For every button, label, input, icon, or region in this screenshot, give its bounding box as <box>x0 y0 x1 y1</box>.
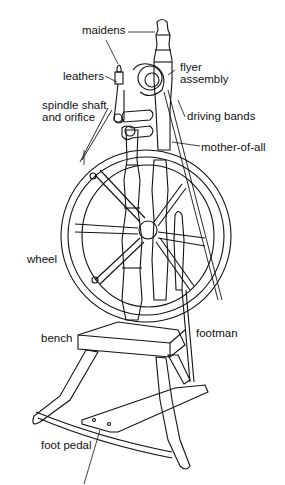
label-mother-of-all: mother-of-all <box>201 141 266 154</box>
label-driving-bands: driving bands <box>187 110 255 123</box>
label-footman: footman <box>196 327 238 340</box>
label-maidens: maidens <box>82 24 125 37</box>
label-leathers: leathers <box>63 70 104 83</box>
label-and-orifice: and orifice <box>42 111 95 124</box>
spinning-wheel-illustration <box>0 0 285 485</box>
label-wheel: wheel <box>27 253 57 266</box>
spinning-wheel-diagram: maidens flyer assembly leathers spindle … <box>0 0 285 485</box>
label-flyer-assembly: assembly <box>180 73 229 86</box>
label-foot-pedal: foot pedal <box>41 439 92 452</box>
label-bench: bench <box>41 332 72 345</box>
